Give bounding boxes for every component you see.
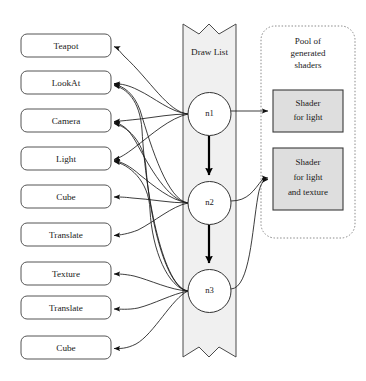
edges-node-n2 — [114, 85, 188, 236]
object-label-cube-2: Cube — [56, 343, 75, 353]
node-n2-label: n2 — [205, 197, 214, 207]
node-n1-label: n1 — [205, 108, 214, 118]
node-n3-label: n3 — [205, 285, 214, 295]
edges-node-n3 — [114, 86, 188, 349]
object-label-lookat: LookAt — [52, 78, 81, 88]
edge-n3-to-shader-light-texture — [231, 180, 268, 290]
edge-n2-to-shader-light-texture — [231, 178, 268, 201]
node-n1[interactable]: n1 — [188, 93, 231, 136]
object-box-translate-2[interactable]: Translate — [21, 296, 111, 319]
object-box-lookat[interactable]: LookAt — [21, 71, 111, 94]
object-label-translate-2: Translate — [49, 303, 83, 313]
object-box-cube-1[interactable]: Cube — [21, 185, 111, 208]
shader-pool-title-line-2: generated — [291, 48, 326, 58]
object-label-light: Light — [56, 154, 76, 164]
diagram-svg: Draw List Pool of generated shaders Shad… — [0, 0, 366, 381]
shader-light-line-2: for light — [293, 112, 323, 122]
object-label-teapot: Teapot — [54, 41, 79, 51]
diagram-canvas: Draw List Pool of generated shaders Shad… — [0, 0, 366, 381]
shader-light-line-1: Shader — [296, 98, 321, 108]
shader-box-light[interactable]: Shader for light — [273, 90, 343, 132]
object-box-light[interactable]: Light — [21, 147, 111, 170]
object-box-translate-1[interactable]: Translate — [21, 223, 111, 246]
object-box-cube-2[interactable]: Cube — [21, 336, 111, 359]
object-box-texture[interactable]: Texture — [21, 262, 111, 285]
shader-light-texture-line-3: and texture — [288, 187, 328, 197]
object-label-cube-1: Cube — [56, 192, 75, 202]
shader-light-rect[interactable] — [273, 90, 343, 132]
object-box-teapot[interactable]: Teapot — [21, 34, 111, 57]
shader-box-light-texture[interactable]: Shader for light and texture — [273, 148, 343, 210]
edges-to-shaders — [231, 111, 268, 289]
node-n2[interactable]: n2 — [188, 182, 231, 225]
edges-node-n1 — [114, 47, 188, 160]
shader-light-texture-line-2: for light — [293, 172, 323, 182]
shader-light-texture-line-1: Shader — [296, 157, 321, 167]
object-label-translate-1: Translate — [49, 230, 83, 240]
shader-pool-title-line-3: shaders — [295, 60, 322, 70]
object-label-texture: Texture — [52, 269, 80, 279]
node-n3[interactable]: n3 — [188, 270, 231, 313]
object-label-camera: Camera — [52, 116, 81, 126]
draw-list-title: Draw List — [191, 47, 228, 57]
object-box-camera[interactable]: Camera — [21, 109, 111, 132]
shader-pool-title-line-1: Pool of — [295, 36, 321, 46]
